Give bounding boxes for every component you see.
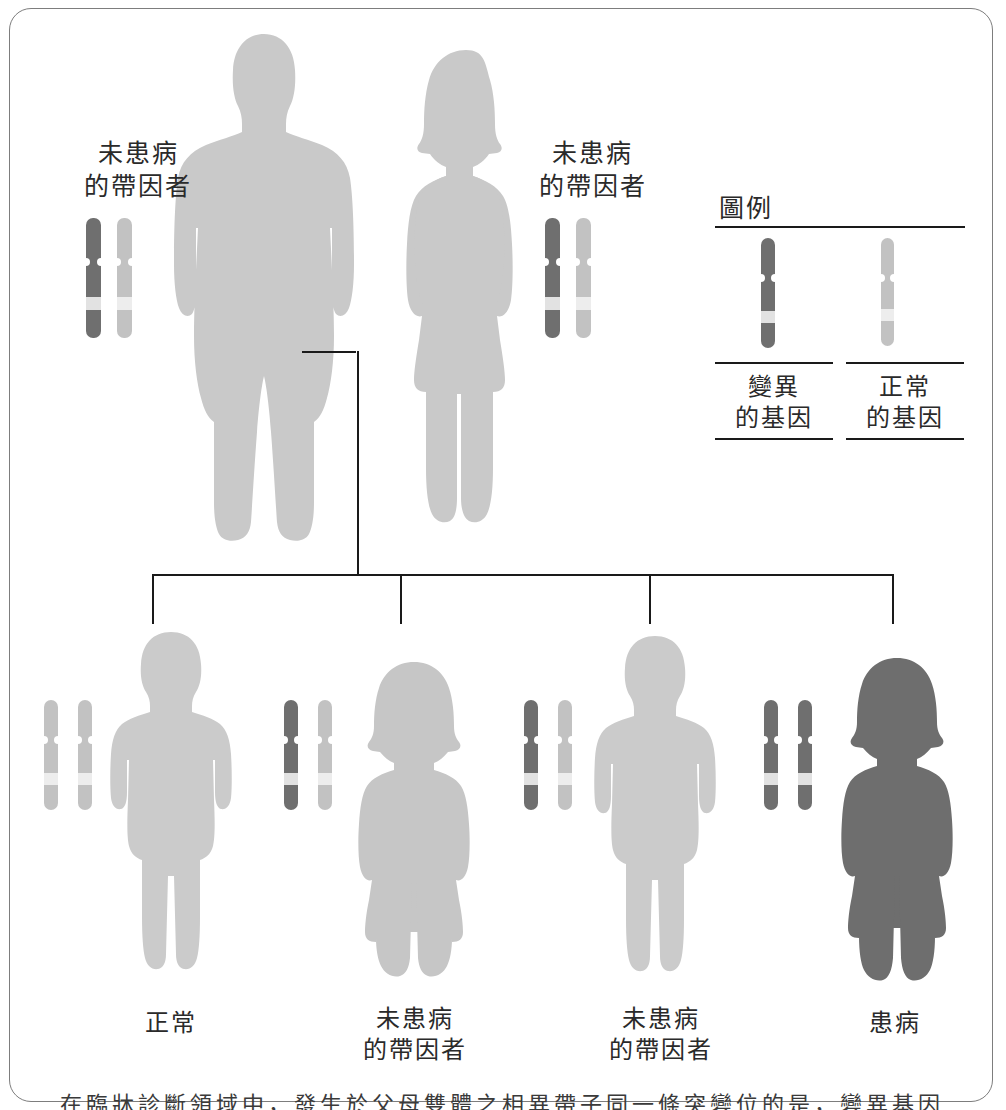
legend-title: 圖例 <box>696 188 796 224</box>
sibling-drop-3 <box>649 574 651 624</box>
child-2-label: 未患病 的帶因者 <box>322 1004 507 1066</box>
legend-chromosome-mutated <box>761 238 775 348</box>
father-silhouette <box>172 32 357 542</box>
page-caption: 在臨牀診斷領域中，發生於父母雙體之相異帶子同一條突變位的是，變異基因，上界分母體… <box>60 1086 940 1110</box>
legend-mutated-top-rule <box>715 362 833 364</box>
legend-label-normal: 正常 的基因 <box>845 372 965 434</box>
mother-chromosome-pair <box>545 218 591 338</box>
chromosome-mutated <box>798 700 812 810</box>
mother-label: 未患病 的帶因者 <box>500 138 685 203</box>
child-4-silhouette <box>838 656 956 984</box>
sibling-drop-2 <box>400 574 402 624</box>
chromosome-normal <box>318 700 332 810</box>
chromosome-normal <box>44 700 58 810</box>
chromosome-normal <box>881 238 894 346</box>
child-4-label: 患病 <box>815 1008 975 1039</box>
child-1-silhouette <box>108 630 234 980</box>
chromosome-mutated <box>524 700 538 810</box>
chromosome-mutated <box>86 218 101 338</box>
descent-line <box>357 351 359 576</box>
pedigree-diagram-page: 未患病 的帶因者 未患病 的帶因者 <box>0 0 1006 1110</box>
legend-chromosome-normal <box>881 238 894 346</box>
child-3-silhouette <box>592 634 718 982</box>
chromosome-mutated <box>764 700 778 810</box>
chromosome-mutated <box>284 700 298 810</box>
child-3-label: 未患病 的帶因者 <box>568 1004 753 1066</box>
child-1-label: 正常 <box>81 1008 261 1039</box>
legend-normal-top-rule <box>846 362 964 364</box>
sibship-line <box>152 574 894 576</box>
child-2-silhouette <box>355 660 473 982</box>
child-2-chromosome-pair <box>284 700 332 810</box>
chromosome-mutated <box>545 218 560 338</box>
sibling-drop-1 <box>152 574 154 624</box>
chromosome-normal <box>558 700 572 810</box>
legend-mutated-bottom-rule <box>715 438 833 440</box>
father-label: 未患病 的帶因者 <box>48 138 228 203</box>
legend-normal-bottom-rule <box>846 438 964 440</box>
mother-silhouette <box>404 48 529 542</box>
father-chromosome-pair <box>86 218 132 338</box>
chromosome-normal <box>78 700 92 810</box>
child-3-chromosome-pair <box>524 700 572 810</box>
chromosome-normal <box>117 218 132 338</box>
chromosome-mutated <box>761 238 775 348</box>
legend-label-mutated: 變異 的基因 <box>714 372 834 434</box>
child-4-chromosome-pair <box>764 700 812 810</box>
child-1-chromosome-pair <box>44 700 92 810</box>
mating-line <box>302 351 356 353</box>
chromosome-normal <box>576 218 591 338</box>
sibling-drop-4 <box>892 574 894 624</box>
legend-top-rule <box>715 226 965 228</box>
